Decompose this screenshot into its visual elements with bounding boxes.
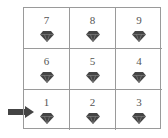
cell-number: 7: [44, 14, 50, 26]
grid-cell-8[interactable]: 8: [70, 8, 116, 49]
cell-number: 1: [44, 96, 50, 108]
diamond-icon: [132, 31, 146, 42]
cell-number: 2: [90, 96, 96, 108]
cell-number: 5: [90, 55, 96, 67]
grid-cell-7[interactable]: 7: [24, 8, 70, 49]
number-grid: 7 8 9 6 5 4 1 2 3: [23, 7, 161, 129]
grid-cell-3[interactable]: 3: [116, 90, 162, 130]
cell-number: 9: [136, 14, 142, 26]
diamond-icon: [40, 113, 54, 124]
diamond-icon: [86, 113, 100, 124]
cell-number: 8: [90, 14, 96, 26]
cell-number: 6: [44, 55, 50, 67]
grid-cell-5[interactable]: 5: [70, 49, 116, 90]
cell-number: 4: [136, 55, 142, 67]
grid-cell-4[interactable]: 4: [116, 49, 162, 90]
grid-cell-9[interactable]: 9: [116, 8, 162, 49]
diamond-icon: [86, 72, 100, 83]
diamond-icon: [132, 72, 146, 83]
grid-cell-6[interactable]: 6: [24, 49, 70, 90]
grid-cell-1[interactable]: 1: [24, 90, 70, 130]
diamond-icon: [132, 113, 146, 124]
cell-number: 3: [136, 96, 142, 108]
diamond-icon: [86, 31, 100, 42]
diamond-icon: [40, 72, 54, 83]
diamond-icon: [40, 31, 54, 42]
grid-cell-2[interactable]: 2: [70, 90, 116, 130]
